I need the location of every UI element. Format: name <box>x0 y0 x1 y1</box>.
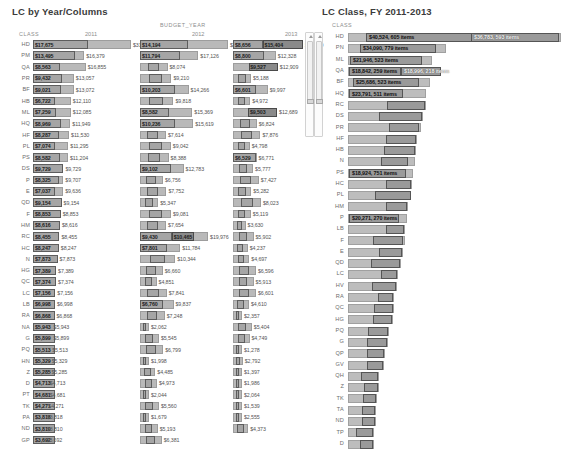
bar-cell[interactable]: $8,563$16,855 <box>33 63 86 72</box>
bar-cell[interactable]: $6,601 <box>233 289 256 298</box>
bar-cell[interactable]: $4,972 <box>233 97 250 106</box>
bar-cell[interactable]: $8,287$11,530 <box>33 131 69 140</box>
bar-cell[interactable]: $7,876 <box>233 131 260 140</box>
bar-cell[interactable]: $5,329$5,329 <box>33 357 50 366</box>
bar-cell[interactable]: $6,756 <box>140 176 163 185</box>
bar-cell[interactable] <box>348 111 423 120</box>
bar-cell[interactable]: $5,943$5,943 <box>33 323 52 332</box>
bar-cell[interactable]: $7,752 <box>140 187 166 196</box>
bar-cell[interactable]: $4,697 <box>233 255 249 264</box>
bar-cell[interactable]: $9,729$9,729 <box>33 164 63 173</box>
bar-cell[interactable]: $8,616$8,616 <box>33 221 60 230</box>
bar-cell[interactable]: $9,102$12,783 <box>140 164 184 173</box>
bar-cell[interactable]: $1,539 <box>233 402 242 411</box>
bar-cell[interactable]: $9,154$9,154 <box>33 198 62 207</box>
bar-cell[interactable]: $8,582$15,369 <box>140 108 192 117</box>
bar-cell[interactable]: $9,081 <box>140 210 171 219</box>
bar-cell[interactable] <box>348 224 405 233</box>
bar-cell[interactable]: $8,656$15,404$20,139 <box>233 40 303 49</box>
bar-cell[interactable]: $4,851 <box>140 277 157 286</box>
bar-cell[interactable] <box>348 269 398 278</box>
bar-cell[interactable]: $8,969$11,949 <box>33 119 70 128</box>
bar-cell[interactable]: $7,248 <box>140 311 165 320</box>
bar-cell[interactable] <box>348 360 384 369</box>
bar-cell[interactable]: $10,344 <box>140 255 175 264</box>
bar-cell[interactable]: $7,614 <box>140 131 166 140</box>
bar-cell[interactable] <box>348 439 374 448</box>
bar-cell[interactable]: $21,946, 523 items <box>348 55 432 64</box>
bar-cell[interactable]: $6,529$6,771 <box>233 153 257 162</box>
bar-cell[interactable] <box>348 382 379 391</box>
bar-cell[interactable]: $9,210 <box>140 74 171 83</box>
bar-cell[interactable]: $7,427 <box>233 176 259 185</box>
bar-cell[interactable]: $7,074$11,295 <box>33 142 68 151</box>
bar-cell[interactable]: $2,044 <box>140 390 149 399</box>
bar-cell[interactable]: $5,560 <box>140 402 159 411</box>
bar-cell[interactable]: $6,601$9,997 <box>233 85 268 94</box>
bar-cell[interactable] <box>348 326 389 335</box>
bar-cell[interactable] <box>348 145 416 154</box>
bar-cell[interactable]: $34,090, 779 items <box>348 43 446 52</box>
bar-cell[interactable]: $5,777 <box>233 164 253 173</box>
bar-cell[interactable] <box>348 405 376 414</box>
bar-cell[interactable]: $17,675$31,345 <box>33 40 131 49</box>
bar-cell[interactable]: $9,818 <box>140 97 173 106</box>
bar-cell[interactable] <box>348 281 397 290</box>
bar-cell[interactable]: $6,799 <box>140 345 163 354</box>
bar-cell[interactable]: $4,973 <box>140 379 157 388</box>
bar-cell[interactable]: $5,193 <box>140 424 158 433</box>
bar-cell[interactable]: $8,388 <box>140 153 169 162</box>
bar-cell[interactable]: $6,596 <box>233 266 256 275</box>
bar-cell[interactable]: $7,841 <box>140 289 167 298</box>
bar-cell[interactable]: $8,023 <box>233 198 261 207</box>
bar-cell[interactable] <box>348 292 394 301</box>
bar-cell[interactable]: $1,998 <box>140 357 149 366</box>
bar-cell[interactable]: $7,389$7,389 <box>33 266 56 275</box>
bar-cell[interactable]: $5,404 <box>233 323 252 332</box>
bar-cell[interactable]: $7,873$7,873 <box>33 255 58 264</box>
bar-cell[interactable]: $5,282 <box>233 187 251 196</box>
bar-cell[interactable]: $4,681$4,681 <box>33 390 48 399</box>
bar-cell[interactable]: $4,485 <box>140 368 155 377</box>
bar-cell[interactable] <box>348 190 411 199</box>
bar-cell[interactable]: $11,794$17,126 <box>140 51 198 60</box>
bar-cell[interactable]: $2,062 <box>140 323 149 332</box>
bar-cell[interactable]: $7,374$7,374 <box>33 277 56 286</box>
bar-cell[interactable] <box>348 416 376 425</box>
bar-cell[interactable]: $5,545 <box>140 334 159 343</box>
bar-cell[interactable]: $9,042 <box>140 142 171 151</box>
bar-cell[interactable]: $14,194$25,823 <box>140 40 228 49</box>
bar-cell[interactable] <box>348 100 426 109</box>
bar-cell[interactable]: $8,455$8,455 <box>33 232 59 241</box>
bar-cell[interactable] <box>348 349 385 358</box>
bar-cell[interactable]: $1,986 <box>233 379 242 388</box>
scroll-up-arrow-right[interactable] <box>318 35 322 38</box>
bar-cell[interactable] <box>348 371 379 380</box>
right-vertical-scrollbar[interactable] <box>314 32 323 137</box>
bar-cell[interactable]: $2,357 <box>233 311 242 320</box>
bar-cell[interactable]: $5,347 <box>140 198 158 207</box>
bar-cell[interactable]: $6,722$12,110 <box>33 97 71 106</box>
bar-cell[interactable] <box>348 134 417 143</box>
bar-cell[interactable]: $6,998$6,998 <box>33 300 55 309</box>
bar-cell[interactable]: $7,259$12,085 <box>33 108 71 117</box>
bar-cell[interactable]: $6,760$9,837 <box>140 300 174 309</box>
bar-cell[interactable]: $2,064 <box>233 390 242 399</box>
bar-cell[interactable] <box>348 337 388 346</box>
bar-cell[interactable]: $5,513$5,513 <box>33 345 50 354</box>
bar-cell[interactable]: $8,325$9,707 <box>33 176 63 185</box>
bar-cell[interactable] <box>348 303 394 312</box>
bar-cell[interactable]: $1,397 <box>233 368 242 377</box>
bar-cell[interactable]: $4,237 <box>233 244 248 253</box>
bar-cell[interactable]: $3,818$3,818 <box>33 413 45 422</box>
bar-cell[interactable]: $4,713$4,713 <box>33 379 48 388</box>
bar-cell[interactable]: $4,373 <box>233 424 248 433</box>
bar-cell[interactable]: $18,842, 259 items$18,996, 218 items <box>348 66 430 75</box>
bar-cell[interactable]: $20,271, 270 items <box>348 213 407 222</box>
bar-cell[interactable]: $7,654 <box>140 221 166 230</box>
bar-cell[interactable] <box>348 315 393 324</box>
bar-cell[interactable]: $5,188 <box>233 74 251 83</box>
bar-cell[interactable]: $6,824 <box>233 119 257 128</box>
bar-cell[interactable]: $9,527$12,909 <box>233 63 278 72</box>
bar-cell[interactable]: $10,236$15,619 <box>140 119 193 128</box>
